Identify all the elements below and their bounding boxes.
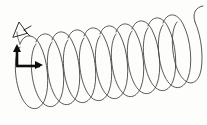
helix-coil-drawing (0, 0, 207, 125)
figure-canvas (0, 0, 207, 125)
